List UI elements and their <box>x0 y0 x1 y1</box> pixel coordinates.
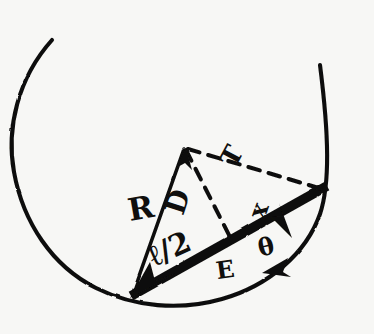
geometry-sketch-svg <box>0 0 374 334</box>
figure-canvas: R D T x θ E ℓ/2 <box>0 0 374 334</box>
label-point-e: E <box>214 257 235 283</box>
label-radius: R <box>126 191 157 226</box>
dashed-tension-line <box>188 149 322 189</box>
